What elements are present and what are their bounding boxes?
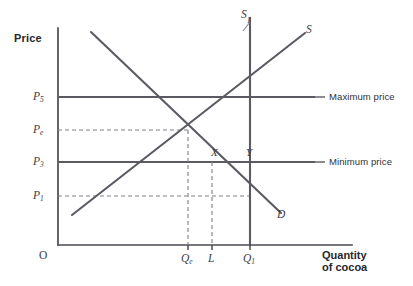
- curve-label-s: S: [306, 24, 312, 36]
- price-tick-p1-sub: 1: [40, 194, 44, 203]
- price-tick-pe-sub: e: [40, 128, 43, 137]
- price-tick-p3-base: P: [33, 155, 40, 167]
- quantity-tick-l: L: [208, 253, 214, 265]
- x-axis-title-line2: of cocoa: [322, 261, 367, 273]
- price-tick-pe: Pe: [33, 124, 43, 136]
- curve-label-s1-base: S: [241, 8, 247, 20]
- x-axis-title: Quantity of cocoa: [322, 249, 367, 273]
- quantity-tick-l-base: L: [208, 252, 214, 264]
- price-tick-p3-sub: 3: [40, 160, 44, 169]
- curve-label-d: D: [277, 209, 285, 221]
- price-tick-p5-base: P: [33, 90, 40, 102]
- quantity-tick-qe: Qe: [181, 253, 193, 265]
- minimum-price-annotation: Minimum price: [329, 157, 392, 167]
- quantity-tick-qe-sub: e: [189, 257, 192, 266]
- quantity-tick-q1: Q1: [243, 253, 255, 265]
- price-tick-pe-base: P: [33, 123, 40, 135]
- curve-label-d-base: D: [277, 208, 285, 220]
- diagram-canvas: [0, 0, 413, 286]
- y-axis-title: Price: [14, 33, 42, 44]
- price-tick-p5-sub: 5: [40, 95, 44, 104]
- curve-label-s1: S1: [241, 9, 251, 23]
- maximum-price-annotation: Maximum price: [329, 92, 395, 102]
- price-tick-p5: P5: [33, 91, 44, 103]
- x-axis-title-line1: Quantity: [322, 249, 367, 261]
- origin-label: O: [39, 250, 47, 262]
- supply-demand-diagram: Price Quantity of cocoa O P5 Pe P3 P1 Qe…: [0, 0, 413, 286]
- demand-curve: [91, 32, 281, 213]
- curve-label-s1-sub: 1: [247, 16, 251, 25]
- price-tick-p1-base: P: [33, 189, 40, 201]
- price-tick-p3: P3: [33, 156, 44, 168]
- point-label-x: X: [211, 147, 218, 158]
- quantity-tick-q1-sub: 1: [251, 257, 255, 266]
- curve-label-s-base: S: [306, 23, 312, 35]
- point-label-y: Y: [246, 147, 252, 158]
- price-tick-p1: P1: [33, 190, 44, 202]
